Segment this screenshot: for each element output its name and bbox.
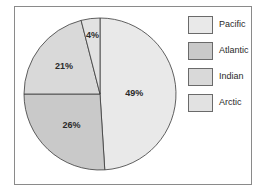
slice-label-indian: 21% [55, 61, 73, 71]
legend-swatch [188, 94, 213, 112]
pie-slice-atlantic [24, 94, 105, 170]
slice-label-pacific: 49% [125, 88, 143, 98]
legend-swatch [188, 16, 213, 34]
legend-item-pacific: Pacific [188, 16, 258, 34]
slice-label-atlantic: 26% [62, 120, 80, 130]
legend-label: Arctic [219, 97, 242, 107]
legend-label: Atlantic [219, 45, 249, 55]
slice-label-arctic: 4% [86, 30, 99, 40]
legend-swatch [188, 42, 213, 60]
legend-item-arctic: Arctic [188, 94, 258, 112]
legend-item-indian: Indian [188, 68, 258, 86]
legend-label: Pacific [219, 19, 246, 29]
legend: Pacific Atlantic Indian Arctic [188, 16, 258, 120]
legend-swatch [188, 68, 213, 86]
legend-item-atlantic: Atlantic [188, 42, 258, 60]
legend-label: Indian [219, 71, 244, 81]
